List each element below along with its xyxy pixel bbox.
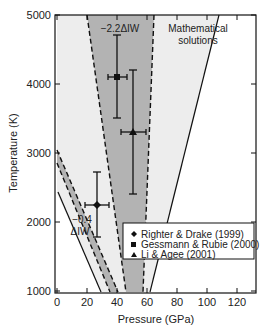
x-tick-label: 60 xyxy=(141,296,153,308)
x-tick-label: 0 xyxy=(54,296,60,308)
x-axis-title: Pressure (GPa) xyxy=(118,313,194,325)
annotation-0.4-iw-1: −0.4 xyxy=(72,214,92,225)
y-tick-label: 4000 xyxy=(27,78,51,90)
annotation-math-solutions-2: solutions xyxy=(178,35,217,46)
y-tick-label: 1000 xyxy=(27,285,51,297)
legend-square-icon xyxy=(131,242,136,247)
y-axis-title: Temperature (K) xyxy=(7,113,19,192)
y-tick-label: 2000 xyxy=(27,216,51,228)
annotation-0.4-iw-2: ΔIW xyxy=(71,226,90,237)
x-tick-label: 120 xyxy=(228,296,246,308)
x-tick-label: 80 xyxy=(171,296,183,308)
legend-item-li-agee: Li & Agee (2001) xyxy=(141,249,216,260)
legend: Righter & Drake (1999) Gessmann & Rubie … xyxy=(123,223,259,260)
x-tick-labels: 0 20 40 60 80 100 120 xyxy=(54,296,246,308)
y-tick-labels: 1000 2000 3000 4000 5000 xyxy=(27,9,51,297)
annotation-math-solutions-1: Mathematical xyxy=(168,23,227,34)
x-tick-label: 100 xyxy=(198,296,216,308)
y-tick-label: 3000 xyxy=(27,147,51,159)
marker-gessmann-square xyxy=(114,74,120,80)
x-tick-label: 20 xyxy=(81,296,93,308)
annotation-2.2-iw: −2.2ΔIW xyxy=(101,23,140,34)
chart: 0 20 40 60 80 100 120 1000 2000 3000 400… xyxy=(0,0,263,330)
x-tick-label: 40 xyxy=(111,296,123,308)
y-tick-label: 5000 xyxy=(27,9,51,21)
